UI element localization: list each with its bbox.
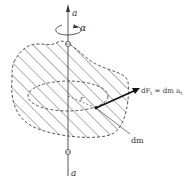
rotation-diagram: a α r dm a dFt = dm at bbox=[0, 0, 188, 181]
force-label: dFt = dm at bbox=[141, 87, 182, 96]
mass-element-dot bbox=[95, 107, 98, 110]
angular-acceleration-arrow bbox=[56, 24, 82, 35]
axis-label-top: a bbox=[72, 8, 77, 18]
mass-element-label: dm bbox=[131, 136, 144, 145]
axis-label-bottom: a bbox=[71, 168, 76, 178]
rigid-body bbox=[0, 30, 140, 150]
angular-acceleration-label: α bbox=[80, 23, 86, 33]
